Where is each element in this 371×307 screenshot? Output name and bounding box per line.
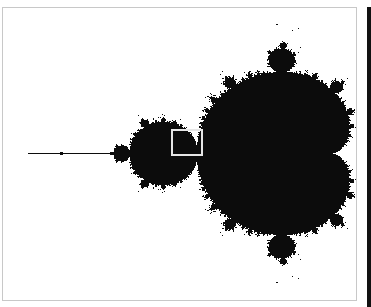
right-edge-strip	[367, 7, 371, 307]
zoom-selection-box[interactable]	[171, 129, 203, 156]
